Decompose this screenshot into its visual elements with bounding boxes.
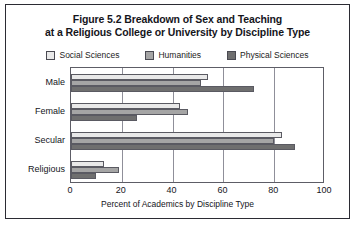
bar [71, 115, 137, 121]
chart-title: Figure 5.2 Breakdown of Sex and Teaching… [6, 13, 349, 39]
plot-wrapper [70, 67, 324, 183]
legend-label: Social Sciences [59, 50, 119, 60]
bar-group-religious [71, 155, 323, 183]
bar-group-secular [71, 126, 323, 155]
x-tick-label-100: 100 [316, 185, 331, 195]
y-tick-label-male: Male [45, 77, 65, 87]
x-axis-ticks: 020406080100 [70, 183, 324, 197]
legend-label: Humanities [158, 50, 201, 60]
legend-label: Physical Sciences [240, 50, 309, 60]
chart-title-line-2: at a Religious College or University by … [6, 26, 349, 39]
x-tick-label-0: 0 [67, 185, 72, 195]
bar-group-female [71, 97, 323, 126]
x-axis-title: Percent of Academics by Discipline Type [6, 199, 349, 209]
x-tick-label-40: 40 [167, 185, 177, 195]
x-tick-label-20: 20 [116, 185, 126, 195]
y-tick-label-female: Female [35, 106, 65, 116]
chart-title-line-1: Figure 5.2 Breakdown of Sex and Teaching [6, 13, 349, 26]
y-tick-label-secular: Secular [34, 135, 65, 145]
legend-item-2: Physical Sciences [227, 50, 309, 60]
y-tick-label-religious: Religious [28, 164, 65, 174]
legend-swatch-icon [227, 51, 236, 60]
y-axis-labels: MaleFemaleSecularReligious [6, 67, 70, 183]
chart-legend: Social SciencesHumanitiesPhysical Scienc… [6, 50, 349, 60]
bar-group-male [71, 68, 323, 97]
legend-item-0: Social Sciences [46, 50, 119, 60]
x-tick-label-60: 60 [217, 185, 227, 195]
legend-swatch-icon [145, 51, 154, 60]
bar [71, 144, 295, 150]
x-tick-label-80: 80 [268, 185, 278, 195]
plot-area [70, 67, 324, 183]
figure-frame: Figure 5.2 Breakdown of Sex and Teaching… [5, 4, 350, 219]
bar [71, 173, 96, 179]
legend-swatch-icon [46, 51, 55, 60]
bar [71, 86, 254, 92]
legend-item-1: Humanities [145, 50, 201, 60]
